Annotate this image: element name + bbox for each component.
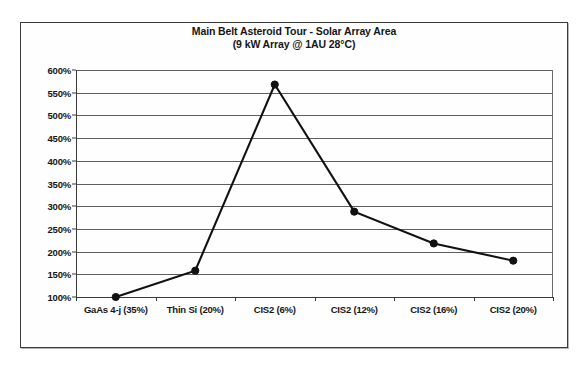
data-series-svg [76,70,553,297]
series-line [116,85,514,297]
y-tick-label: 450% [48,133,72,144]
x-tick-label: GaAs 4-j (35%) [84,304,148,315]
x-tick-mark [553,297,554,301]
y-tick-label: 300% [48,201,72,212]
y-tick-label: 150% [48,269,72,280]
chart-title: Main Belt Asteroid Tour - Solar Array Ar… [21,25,567,38]
y-tick-label: 400% [48,155,72,166]
data-point [351,208,358,215]
y-tick-label: 550% [48,87,72,98]
x-tick-mark [394,297,395,301]
x-tick-mark [474,297,475,301]
data-point [112,293,119,300]
x-tick-label: Thin Si (20%) [167,304,224,315]
x-tick-label: CIS2 (12%) [331,304,378,315]
data-point [192,267,199,274]
plot-area: 100%150%200%250%300%350%400%450%500%550%… [76,70,553,297]
title-block: Main Belt Asteroid Tour - Solar Array Ar… [21,25,567,51]
data-point [510,257,517,264]
x-tick-mark [76,297,77,301]
x-tick-mark [235,297,236,301]
y-tick-label: 500% [48,110,72,121]
series-markers-group [112,81,517,301]
x-tick-mark [315,297,316,301]
x-tick-mark [156,297,157,301]
chart-frame: Main Belt Asteroid Tour - Solar Array Ar… [20,22,568,348]
chart-subtitle: (9 kW Array @ 1AU 28°C) [21,38,567,51]
x-tick-label: CIS2 (6%) [254,304,296,315]
y-tick-label: 600% [48,65,72,76]
y-tick-label: 100% [48,292,72,303]
y-tick-label: 200% [48,246,72,257]
x-tick-label: CIS2 (16%) [410,304,457,315]
data-point [430,240,437,247]
y-tick-label: 250% [48,223,72,234]
data-point [271,81,278,88]
y-tick-label: 350% [48,178,72,189]
x-tick-label: CIS2 (20%) [490,304,537,315]
